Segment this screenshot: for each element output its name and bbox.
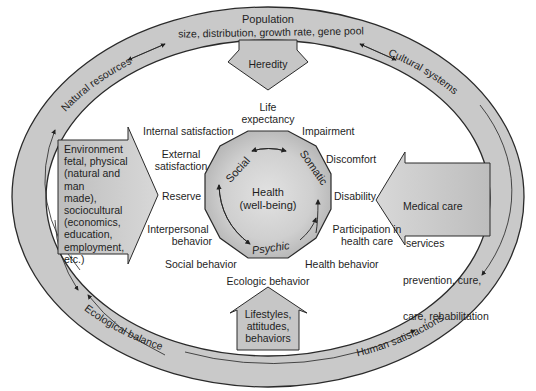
- outcome-line: Life: [238, 101, 298, 113]
- heredity-label: Heredity: [238, 58, 298, 70]
- environment-line: (natural and man: [64, 167, 136, 191]
- outcome-discomfort: Discomfort: [326, 153, 376, 165]
- outcome-internal-satisfaction: Internal satisfaction: [143, 125, 233, 137]
- health-title: Health: [228, 186, 308, 198]
- outcome-disability: Disability: [334, 190, 376, 202]
- medical-care-line: care, rehabilitation: [403, 310, 493, 322]
- environment-line: made),: [64, 192, 136, 204]
- medical-care-line: Medical care: [403, 200, 493, 212]
- environment-line: education,: [64, 228, 136, 240]
- outcome-line: External: [152, 148, 210, 160]
- environment-line: sociocultural: [64, 204, 136, 216]
- outcome-line: health care: [324, 235, 410, 247]
- outcome-life-expectancy: Life expectancy: [238, 101, 298, 125]
- outcome-interpersonal-behavior: Interpersonal behavior: [144, 223, 212, 247]
- outcome-line: Interpersonal: [144, 223, 212, 235]
- environment-line: Environment: [64, 143, 136, 155]
- outcome-line: Participation in: [324, 223, 410, 235]
- outcome-impairment: Impairment: [302, 125, 355, 137]
- outcome-reserve: Reserve: [162, 190, 201, 202]
- lifestyles-label: Lifestyles, attitudes, behaviors: [238, 308, 298, 345]
- medical-care-line: services: [403, 237, 493, 249]
- ring-label-population: Population: [218, 13, 318, 25]
- outcome-social-behavior: Social behavior: [165, 258, 237, 270]
- outcome-line: satisfaction: [152, 160, 210, 172]
- lifestyles-line: attitudes,: [238, 320, 298, 332]
- environment-line: etc.): [64, 253, 136, 265]
- environment-label: Environment fetal, physical (natural and…: [64, 143, 136, 265]
- outcome-external-satisfaction: External satisfaction: [152, 148, 210, 172]
- outcome-line: expectancy: [238, 113, 298, 125]
- health-subtitle: (well-being): [228, 199, 308, 211]
- lifestyles-line: behaviors: [238, 332, 298, 344]
- outcome-line: behavior: [144, 235, 212, 247]
- outcome-health-behavior: Health behavior: [305, 258, 379, 270]
- medical-care-label: Medical care services prevention, cure, …: [403, 176, 493, 335]
- lifestyles-line: Lifestyles,: [238, 308, 298, 320]
- environment-line: (economics,: [64, 216, 136, 228]
- environment-line: fetal, physical: [64, 155, 136, 167]
- medical-care-line: prevention, cure,: [403, 274, 493, 286]
- outcome-participation: Participation in health care: [324, 223, 410, 247]
- environment-line: employment,: [64, 241, 136, 253]
- outcome-ecologic-behavior: Ecologic behavior: [218, 275, 318, 287]
